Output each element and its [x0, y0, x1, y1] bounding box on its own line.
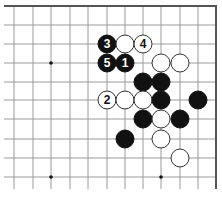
white-stone-disc: [171, 54, 189, 72]
white-stone: [152, 54, 170, 72]
black-stone-disc: [189, 91, 207, 109]
white-stone: [171, 149, 189, 167]
go-board: 34512: [0, 0, 222, 199]
black-stone: [152, 91, 170, 109]
black-stone-disc: [134, 110, 152, 128]
star-point: [49, 61, 53, 65]
black-stone-disc: [152, 91, 170, 109]
white-stone: [134, 91, 152, 109]
move-number-label: 1: [122, 56, 129, 70]
white-stone: [152, 110, 170, 128]
black-stone: [171, 110, 189, 128]
white-stone: [116, 91, 134, 109]
white-stone-disc: [152, 110, 170, 128]
white-stone-disc: [134, 91, 152, 109]
white-stone-disc: [171, 149, 189, 167]
black-stone: [116, 130, 134, 148]
star-point: [49, 175, 53, 179]
stones-layer: 34512: [98, 35, 207, 167]
white-stone: [171, 54, 189, 72]
black-stone-disc: [116, 130, 134, 148]
white-stone-2: 2: [98, 91, 116, 109]
white-stone-disc: [152, 130, 170, 148]
move-number-label: 2: [104, 93, 111, 107]
white-stone: [152, 130, 170, 148]
white-stone-4: 4: [134, 35, 152, 53]
white-stone-disc: [116, 35, 134, 53]
black-stone-disc: [152, 73, 170, 91]
black-stone-5: 5: [98, 54, 116, 72]
black-stone: [152, 73, 170, 91]
white-stone-disc: [116, 91, 134, 109]
move-number-label: 3: [104, 37, 111, 51]
black-stone-3: 3: [98, 35, 116, 53]
move-number-label: 4: [140, 37, 147, 51]
white-stone-disc: [152, 54, 170, 72]
star-point: [159, 175, 163, 179]
black-stone: [189, 91, 207, 109]
black-stone: [134, 110, 152, 128]
black-stone-disc: [134, 73, 152, 91]
white-stone: [116, 35, 134, 53]
black-stone-1: 1: [116, 54, 134, 72]
black-stone: [134, 73, 152, 91]
move-number-label: 5: [104, 56, 111, 70]
black-stone-disc: [171, 110, 189, 128]
